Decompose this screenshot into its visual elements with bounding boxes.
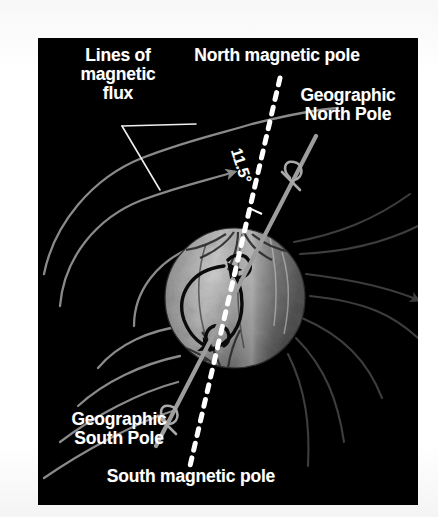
- earth-globe: [165, 228, 305, 368]
- label-south-magnetic-pole: South magnetic pole: [56, 467, 326, 486]
- label-lines-of-magnetic-flux: Lines of magnetic flux: [52, 46, 184, 103]
- diagram-panel: Lines of magnetic flux North magnetic po…: [38, 38, 418, 505]
- label-geographic-north-pole: Geographic North Pole: [281, 86, 415, 124]
- label-north-magnetic-pole: North magnetic pole: [170, 46, 384, 65]
- label-geographic-south-pole: Geographic South Pole: [44, 410, 194, 448]
- figure-root: Lines of magnetic flux North magnetic po…: [0, 0, 438, 517]
